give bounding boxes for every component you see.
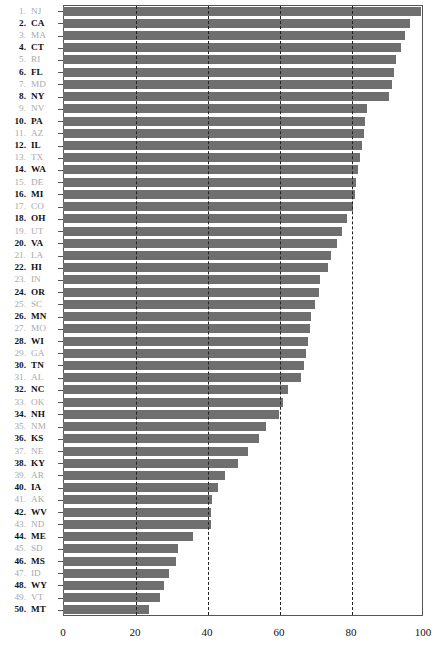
state-abbreviation: PA [31,116,55,127]
category-label-in: 23.IN [0,274,63,285]
bar-nj [63,7,421,16]
state-abbreviation: TX [31,152,55,163]
rank-number: 28. [2,336,26,347]
bar-row [63,68,423,77]
category-label-pa: 10.PA [0,116,63,127]
bar-row [63,227,423,236]
bar-ms [63,557,176,566]
category-label-de: 15.DE [0,177,63,188]
category-axis-labels: 1.NJ2.CA3.MA4.CT5.RI6.FL7.MD8.NY9.NV10.P… [0,5,63,616]
category-label-wv: 42.WV [0,507,63,518]
rank-number: 19. [2,226,26,237]
gridline-80 [352,6,353,615]
gridline-40 [208,6,209,615]
state-abbreviation: NV [31,103,55,114]
category-label-ct: 4.CT [0,42,63,53]
bar-al [63,373,301,382]
bar-row [63,141,423,150]
rank-number: 32. [2,384,26,395]
bar-row [63,80,423,89]
bar-fl [63,68,394,77]
rank-number: 35. [2,421,26,432]
state-abbreviation: MA [31,30,55,41]
category-label-vt: 49.VT [0,592,63,603]
x-tick-label-0: 0 [60,626,66,638]
bar-row [63,569,423,578]
category-label-ca: 2.CA [0,18,63,29]
bars-layer [63,5,423,616]
bar-md [63,80,392,89]
bar-ne [63,447,248,456]
bar-in [63,275,320,284]
bar-row [63,373,423,382]
rank-number: 14. [2,164,26,175]
state-abbreviation: NC [31,384,55,395]
bar-vt [63,593,160,602]
category-label-ri: 5.RI [0,54,63,65]
bar-row [63,605,423,614]
category-label-ak: 41.AK [0,494,63,505]
bar-row [63,117,423,126]
x-tick-label-100: 100 [415,626,432,638]
bar-row [63,7,423,16]
bar-ak [63,495,212,504]
bar-row [63,349,423,358]
bar-wy [63,581,164,590]
state-abbreviation: IL [31,140,55,151]
rank-number: 36. [2,433,26,444]
state-abbreviation: WV [31,507,55,518]
rank-number: 18. [2,213,26,224]
bar-oh [63,214,347,223]
state-abbreviation: TN [31,360,55,371]
bar-row [63,434,423,443]
bar-ny [63,92,389,101]
state-abbreviation: AR [31,470,55,481]
bar-row [63,165,423,174]
state-abbreviation: OK [31,397,55,408]
state-abbreviation: MS [31,556,55,567]
state-abbreviation: KS [31,433,55,444]
state-abbreviation: CO [31,201,55,212]
state-abbreviation: SC [31,299,55,310]
bar-ga [63,349,306,358]
bar-nh [63,410,279,419]
state-abbreviation: ID [31,568,55,579]
rank-number: 6. [2,67,26,78]
rank-number: 30. [2,360,26,371]
category-label-tx: 13.TX [0,152,63,163]
bar-row [63,385,423,394]
rank-number: 34. [2,409,26,420]
category-label-hi: 22.HI [0,262,63,273]
category-label-mt: 50.MT [0,604,63,615]
state-abbreviation: AL [31,372,55,383]
category-label-sd: 45.SD [0,543,63,554]
rank-number: 16. [2,189,26,200]
state-abbreviation: MN [31,311,55,322]
category-label-wa: 14.WA [0,164,63,175]
bar-ct [63,43,401,52]
bar-row [63,581,423,590]
state-abbreviation: OH [31,213,55,224]
category-label-co: 17.CO [0,201,63,212]
category-label-me: 44.ME [0,531,63,542]
bar-sc [63,300,315,309]
state-abbreviation: AZ [31,128,55,139]
category-label-id: 47.ID [0,568,63,579]
category-label-ut: 19.UT [0,226,63,237]
bar-row [63,593,423,602]
category-label-ms: 46.MS [0,556,63,567]
bar-ia [63,483,218,492]
category-label-tn: 30.TN [0,360,63,371]
category-label-ia: 40.IA [0,482,63,493]
bar-id [63,569,169,578]
bar-row [63,557,423,566]
rank-number: 40. [2,482,26,493]
category-label-al: 31.AL [0,372,63,383]
category-label-ks: 36.KS [0,433,63,444]
category-label-la: 21.LA [0,250,63,261]
category-label-mn: 26.MN [0,311,63,322]
state-abbreviation: WI [31,336,55,347]
bar-pa [63,117,365,126]
bar-ri [63,55,396,64]
category-label-mo: 27.MO [0,323,63,334]
